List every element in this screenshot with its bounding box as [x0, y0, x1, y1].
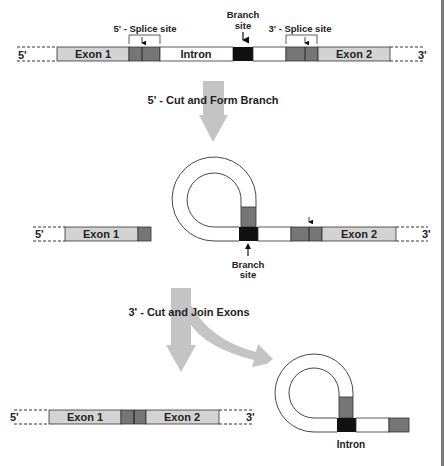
excised-intron-lariat: Intron — [255, 352, 409, 450]
five-prime-label: 5' — [18, 49, 27, 61]
splice5-block — [138, 227, 151, 241]
splice3-block — [389, 418, 409, 432]
exon1-label: Exon 1 — [67, 411, 103, 423]
exon1-label: Exon 1 — [83, 228, 119, 240]
splice5-label: 5' - Splice site — [114, 23, 177, 34]
splice3-block — [286, 47, 318, 61]
three-prime-label: 3' — [422, 228, 431, 240]
five-prime-label: 5' — [10, 411, 19, 423]
intron-label: Intron — [180, 48, 211, 60]
pre-mrna: 5' 3' Exon 1 Intron Exon 2 5' - Splice s… — [17, 9, 427, 61]
lariat-intermediate: 5' Exon 1 Exon 2 3' Branch site — [33, 157, 431, 280]
spliced-mrna: 5' Exon 1 Exon 2 3' — [10, 410, 255, 424]
intron-label: Intron — [337, 439, 365, 450]
five-prime-label: 5' — [35, 228, 44, 240]
exon1-label: Exon 1 — [75, 48, 111, 60]
branch-label-1: Branch — [227, 9, 260, 20]
splice3-bracket — [286, 35, 317, 44]
lariat-splice-block — [339, 397, 353, 418]
right-border — [441, 0, 444, 466]
lariat-splice-block — [241, 207, 256, 227]
branch-site-block — [239, 227, 258, 241]
step1-arrow-icon — [199, 81, 228, 142]
branch-label-2: site — [240, 269, 256, 280]
splice5-bracket — [129, 35, 160, 44]
step1-label: 5' - Cut and Form Branch — [148, 94, 279, 106]
branch-label-2: site — [235, 20, 251, 31]
exon2-label: Exon 2 — [341, 228, 377, 240]
exon2-label: Exon 2 — [164, 411, 200, 423]
splice3-label: 3' - Splice site — [269, 23, 332, 34]
splice3-block — [291, 227, 322, 241]
step2-arrow-icon — [166, 288, 276, 372]
three-prime-label: 3' — [246, 411, 255, 423]
exon2-label: Exon 2 — [336, 48, 372, 60]
splice5-block — [129, 47, 160, 61]
step2-label: 3' - Cut and Join Exons — [128, 306, 249, 318]
three-prime-label: 3' — [418, 49, 427, 61]
branch-site-block — [233, 47, 253, 61]
branch-site-block — [337, 418, 356, 432]
splicing-diagram: 5' 3' Exon 1 Intron Exon 2 5' - Splice s… — [0, 0, 445, 466]
